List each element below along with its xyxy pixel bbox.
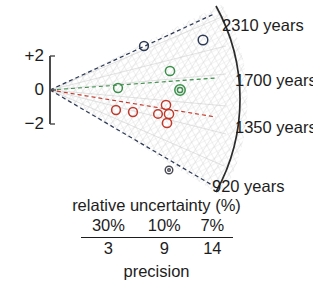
data-point [165,166,173,174]
x-axis-caption-uncertainty: relative uncertainty (%) [0,196,313,214]
scale-table-row-precision: 3 9 14 [81,237,233,258]
scale-table-row-uncertainty: 30% 10% 7% [81,216,233,237]
scale-table: 30% 10% 7% 3 9 14 [81,216,233,259]
precision-14: 14 [192,237,232,258]
wedge-hatch-fill [50,4,248,196]
radial-label-1700: 1700 years [235,72,313,89]
uncertainty-30: 30% [81,216,137,237]
data-point-inner [168,169,171,172]
radial-label-1350: 1350 years [235,119,313,136]
precision-9: 9 [136,237,192,258]
uncertainty-7: 7% [192,216,232,237]
series-points-920 [165,166,173,174]
radial-label-920: 920 years [212,178,284,195]
radial-label-2310: 2310 years [222,17,304,34]
precision-3: 3 [81,237,137,258]
x-axis-caption-precision: precision [0,262,313,280]
y-tick-label-minus2: −2 [14,115,44,132]
y-tick-label-plus2: +2 [14,47,44,64]
y-tick-label-zero: 0 [14,81,44,98]
bottom-axis-block: relative uncertainty (%) 30% 10% 7% 3 9 … [0,196,313,280]
uncertainty-10: 10% [136,216,192,237]
